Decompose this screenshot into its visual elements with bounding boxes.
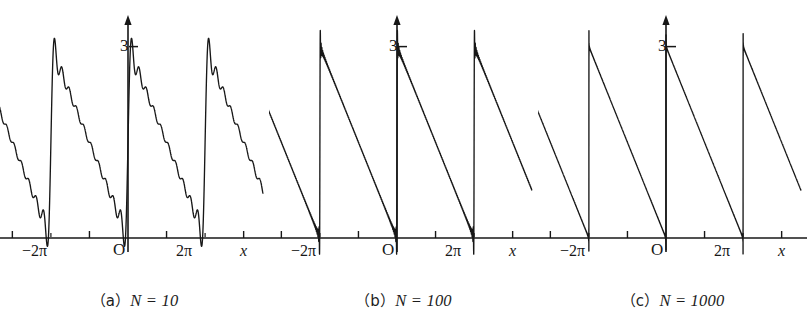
waveform-plot-b: [269, 0, 538, 280]
caption-a: （a）N = 10: [0, 289, 269, 311]
caption-body-c: N = 1000: [659, 291, 724, 310]
waveform-plot-a: [0, 0, 269, 280]
caption-prefix-c: （c）: [621, 292, 660, 310]
chart-panel-c: 3 O −2π 2π x （c）N = 1000: [538, 0, 807, 335]
y-tick-label-3-c: 3: [658, 37, 667, 54]
origin-label-b: O: [382, 241, 394, 258]
waveform-plot-c: [538, 0, 807, 280]
plot-area-a: [0, 0, 269, 280]
caption-c: （c）N = 1000: [538, 289, 807, 311]
origin-label-c: O: [651, 241, 663, 258]
caption-body-b: N = 100: [395, 291, 452, 310]
plot-area-b: [269, 0, 538, 280]
x-tick-label-neg2pi-a: −2π: [22, 243, 47, 259]
x-axis-label-a: x: [240, 243, 247, 259]
x-tick-label-neg2pi-c: −2π: [560, 243, 585, 259]
x-tick-label-2pi-b: 2π: [445, 243, 461, 259]
chart-panel-b: 3 O −2π 2π x （b）N = 100: [269, 0, 538, 335]
y-tick-label-3-a: 3: [120, 37, 129, 54]
x-tick-label-2pi-c: 2π: [714, 243, 730, 259]
origin-label-a: O: [113, 241, 125, 258]
gibbs-phenomenon-figure: 3 O −2π 2π x （a）N = 10 3 O −2π 2π x （b）N…: [0, 0, 808, 335]
plot-area-c: [538, 0, 807, 280]
caption-body-a: N = 10: [130, 291, 178, 310]
x-axis-label-c: x: [778, 243, 785, 259]
caption-b: （b）N = 100: [269, 289, 538, 311]
x-axis-label-b: x: [509, 243, 516, 259]
x-tick-label-neg2pi-b: −2π: [291, 243, 316, 259]
y-tick-label-3-b: 3: [389, 37, 398, 54]
caption-prefix-b: （b）: [355, 292, 395, 310]
chart-panel-a: 3 O −2π 2π x （a）N = 10: [0, 0, 269, 335]
x-tick-label-2pi-a: 2π: [176, 243, 192, 259]
caption-prefix-a: （a）: [91, 292, 131, 310]
